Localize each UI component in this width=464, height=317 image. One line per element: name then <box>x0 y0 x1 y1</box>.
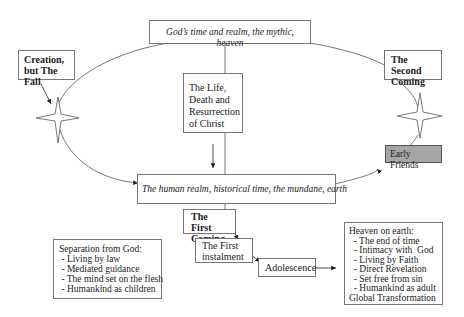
earth-realm-box: The human realm, historical time, the mu… <box>137 174 336 204</box>
second-coming-line-2: Coming <box>391 76 435 87</box>
first-instalment-box: The First instalment <box>195 238 253 263</box>
christ-line-4: of Christ <box>189 118 237 130</box>
star-second-coming-icon <box>397 93 442 138</box>
early-friends-box: Early Friends <box>385 145 442 163</box>
second-coming-line-1: The Second <box>391 54 435 76</box>
first-coming-box: The First Coming <box>183 209 236 234</box>
christ-line-2: Death and <box>189 94 237 106</box>
heaven-realm-box: God’s time and realm, the mythic, heaven <box>149 20 311 44</box>
star-creation-icon <box>36 97 79 143</box>
first-instalment-line-1: The First <box>202 240 246 251</box>
creation-line-1: Creation, <box>24 54 69 65</box>
heaven-on-earth-footer: Global Transformation <box>349 294 438 304</box>
second-coming-box: The Second Coming <box>384 50 442 80</box>
christ-line-1: The Life, <box>189 82 237 94</box>
separation-item: - Living by law <box>59 254 156 264</box>
adolescence-box: Adolescence <box>258 258 316 277</box>
christ-box: The Life, Death and Resurrection of Chri… <box>183 73 243 133</box>
creation-fall-box: Creation, but The Fall <box>18 50 75 80</box>
separation-title: Separation from God: <box>59 244 156 254</box>
first-instalment-line-2: instalment <box>202 251 246 262</box>
separation-item: - Humankind as children <box>59 284 156 294</box>
first-coming-line-1: The First <box>191 211 228 233</box>
creation-line-2: but The Fall <box>24 65 69 87</box>
separation-item: - Mediated guidance <box>59 264 156 274</box>
separation-box: Separation from God: - Living by law - M… <box>53 239 162 299</box>
separation-item: - The mind set on the flesh <box>59 274 156 284</box>
heaven-on-earth-box: Heaven on earth: - The end of time - Int… <box>344 222 443 305</box>
christ-line-3: Resurrection <box>189 106 237 118</box>
